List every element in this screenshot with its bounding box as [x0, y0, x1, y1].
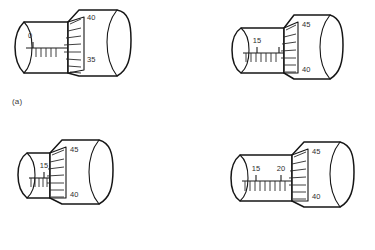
thimble-label-b-bottom: 40 — [302, 65, 310, 74]
thimble-label-d-bottom: 40 — [312, 192, 320, 201]
sleeve-body-b — [232, 28, 284, 73]
sleeve-label-d-15: 15 — [252, 164, 260, 173]
thimble-body-a — [68, 10, 131, 76]
sleeve-label-b-15: 15 — [253, 36, 261, 45]
micrometer-diagram-c: 15 45 40 — [0, 125, 187, 250]
sleeve-label-a-0: 0 — [28, 31, 32, 40]
micrometer-diagram-a: 0 40 35 — [0, 0, 187, 125]
micrometer-diagram-b: 15 45 40 — [188, 0, 375, 125]
sleeve-body-c — [18, 153, 50, 198]
panel-caption-a: (a) — [12, 97, 22, 106]
micrometer-panel-c: 15 45 40 (c) — [0, 125, 187, 250]
sleeve-body-d — [231, 155, 292, 201]
thimble-label-c-top: 45 — [70, 145, 78, 154]
thimble-label-b-top: 45 — [302, 20, 310, 29]
thimble-label-d-top: 45 — [312, 147, 320, 156]
sleeve-label-c-15: 15 — [40, 161, 48, 170]
micrometer-figure: 0 40 35 (a) — [0, 0, 375, 250]
micrometer-diagram-d: 15 20 45 40 — [188, 125, 375, 250]
sleeve-label-d-20: 20 — [277, 164, 285, 173]
thimble-label-c-bottom: 40 — [70, 190, 78, 199]
micrometer-panel-a: 0 40 35 (a) — [0, 0, 187, 125]
thimble-label-a-top: 40 — [87, 13, 95, 22]
micrometer-panel-b: 15 45 40 (b) — [188, 0, 375, 125]
micrometer-panel-d: 15 20 45 40 (d) — [188, 125, 375, 250]
thimble-label-a-bottom: 35 — [87, 55, 95, 64]
